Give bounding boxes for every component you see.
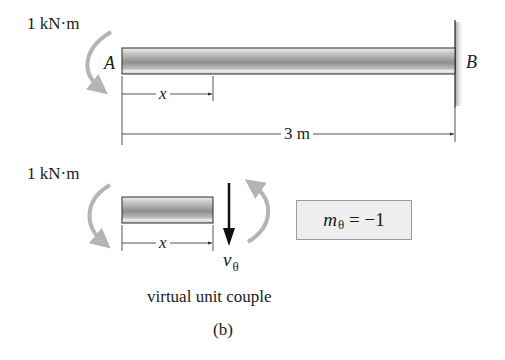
dim-x-bottom-label: x xyxy=(156,234,170,251)
beam-segment xyxy=(122,197,213,223)
moment-label-top: 1 kN·m xyxy=(27,15,79,32)
moment-equation-box: mθ = −1 xyxy=(296,200,412,240)
dim-x-top-label: x xyxy=(156,85,170,102)
segment-moment-arrow-icon xyxy=(90,185,110,242)
beam-ab xyxy=(122,48,455,74)
moment-eq-subscript: θ xyxy=(338,217,344,233)
moment-eq-symbol: m xyxy=(323,209,337,231)
internal-moment-arrow-icon xyxy=(248,185,268,242)
fixed-support-b xyxy=(455,20,464,108)
point-b-label: B xyxy=(466,53,477,71)
shear-subscript: θ xyxy=(232,259,238,274)
shear-arrow-down-icon xyxy=(223,183,235,246)
dim-length-label: 3 m xyxy=(281,125,313,142)
point-a-label: A xyxy=(104,54,115,72)
figure-caption: virtual unit couple xyxy=(147,288,272,305)
moment-label-bottom: 1 kN·m xyxy=(27,165,79,182)
shear-label: vθ xyxy=(223,250,239,269)
moment-eq-rhs: = −1 xyxy=(344,209,384,231)
figure-label: (b) xyxy=(213,321,233,338)
shear-symbol: v xyxy=(223,249,231,270)
